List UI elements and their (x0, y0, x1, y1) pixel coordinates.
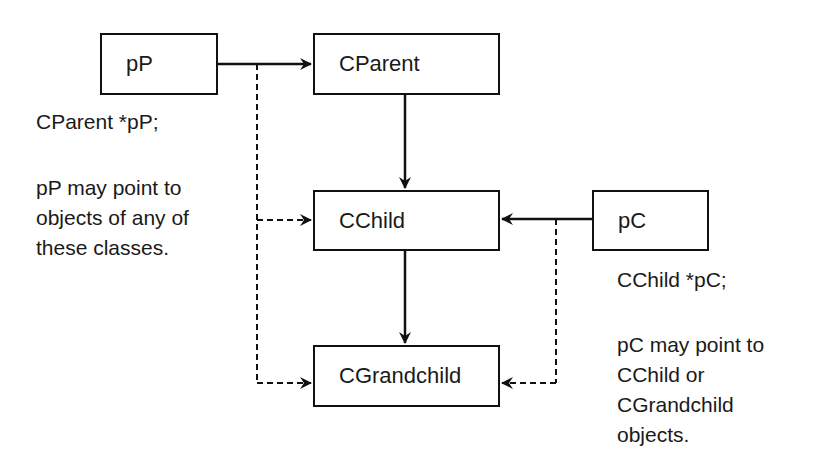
node-pc: pC (592, 190, 709, 251)
node-cgrandchild-label: CGrandchild (315, 363, 461, 389)
pc-note-line: objects. (617, 420, 764, 450)
pc-note-line: pC may point to (617, 330, 764, 360)
node-cgrandchild: CGrandchild (313, 345, 500, 407)
pp-note: pP may point to objects of any of these … (36, 173, 189, 263)
pc-note-line: CGrandchild (617, 390, 764, 420)
node-cparent-label: CParent (315, 51, 420, 77)
pp-note-line: objects of any of (36, 203, 189, 233)
node-cchild-label: CChild (315, 208, 405, 234)
pc-note: pC may point to CChild or CGrandchild ob… (617, 330, 764, 450)
pp-note-line: these classes. (36, 233, 189, 263)
pc-note-line: CChild or (617, 360, 764, 390)
pp-declaration: CParent *pP; (36, 107, 159, 137)
node-pp-label: pP (102, 51, 153, 77)
node-cparent: CParent (313, 33, 500, 95)
node-cchild: CChild (313, 190, 500, 251)
node-pp: pP (100, 33, 218, 95)
pc-declaration: CChild *pC; (617, 265, 727, 295)
pp-note-line: pP may point to (36, 173, 189, 203)
node-pc-label: pC (594, 208, 646, 234)
